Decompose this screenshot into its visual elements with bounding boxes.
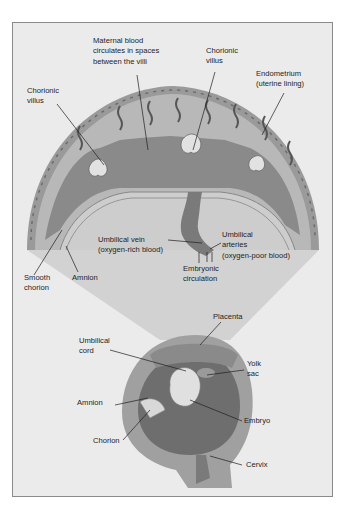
label-maternal-blood: Maternal blood circulates in spaces betw…	[93, 36, 159, 67]
label-chorionic-villus-left: Chorionic villus	[27, 86, 59, 107]
label-chorionic-villus-top: Chorionic villus	[206, 46, 238, 67]
label-cervix: Cervix	[246, 460, 268, 470]
label-umbilical-vein: Umbilical vein (oxygen-rich blood)	[98, 235, 163, 256]
label-umbilical-cord: Umbilical cord	[79, 336, 110, 357]
label-placenta: Placenta	[213, 312, 243, 322]
label-embryonic-circulation: Embryonic circulation	[183, 264, 219, 285]
label-endometrium: Endometrium (uterine lining)	[256, 69, 304, 90]
label-yolk-sac: Yolk sac	[247, 359, 261, 380]
label-embryo: Embryo	[244, 416, 270, 426]
label-amnion-lower: Amnion	[77, 398, 103, 408]
magnification-cone	[27, 250, 319, 340]
label-amnion-upper: Amnion	[72, 273, 98, 283]
yolk-sac	[197, 368, 215, 378]
embryo	[170, 368, 201, 407]
label-chorion: Chorion	[93, 436, 120, 446]
label-umbilical-arteries: Umbilical arteries (oxygen-poor blood)	[222, 230, 290, 261]
label-smooth-chorion: Smooth chorion	[24, 273, 50, 294]
